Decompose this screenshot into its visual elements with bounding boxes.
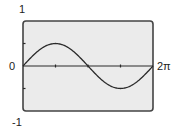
- plot-area: [0, 0, 180, 134]
- y-min-label: -1: [12, 117, 22, 128]
- y-max-label: 1: [19, 4, 25, 15]
- x-max-label: 2π: [157, 61, 171, 72]
- x-min-label: 0: [9, 61, 15, 72]
